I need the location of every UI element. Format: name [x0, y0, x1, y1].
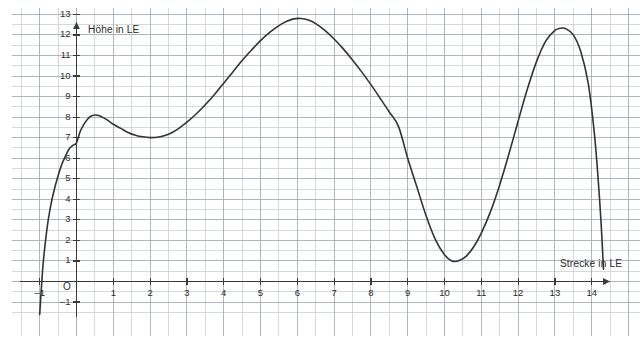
y-axis-label: Höhe in LE: [88, 24, 139, 35]
y-tick-label: –1: [55, 296, 71, 307]
data-curve: [40, 18, 604, 314]
x-tick-label: 8: [362, 287, 380, 298]
x-tick-label: –1: [31, 287, 49, 298]
x-tick-label: 13: [546, 287, 564, 298]
x-tick-label: 6: [288, 287, 306, 298]
x-tick-label: 5: [252, 287, 270, 298]
y-tick-label: 10: [55, 70, 71, 81]
x-tick-label: 3: [178, 287, 196, 298]
y-tick-label: 1: [55, 254, 71, 265]
x-axis-arrow: [603, 278, 610, 285]
y-tick-label: 6: [55, 152, 71, 163]
x-tick-label: 11: [472, 287, 490, 298]
y-axis-arrow: [73, 22, 80, 29]
y-tick-label: 5: [55, 172, 71, 183]
y-tick-label: 12: [55, 28, 71, 39]
x-tick-label: 1: [104, 287, 122, 298]
y-tick-label: 11: [55, 49, 71, 60]
x-tick-label: 7: [325, 287, 343, 298]
y-tick-label: 4: [55, 193, 71, 204]
y-tick-label: 8: [55, 111, 71, 122]
y-tick-label: 3: [55, 213, 71, 224]
x-tick-label: 2: [141, 287, 159, 298]
x-tick-label: 9: [399, 287, 417, 298]
x-tick-label: 14: [583, 287, 601, 298]
x-axis-label: Strecke in LE: [560, 258, 622, 269]
axes: [20, 22, 610, 317]
x-tick-label: 12: [509, 287, 527, 298]
origin-label: O: [63, 281, 71, 292]
x-tick-label: 4: [215, 287, 233, 298]
y-tick-label: 2: [55, 234, 71, 245]
y-tick-label: 7: [55, 131, 71, 142]
y-tick-label: 13: [55, 8, 71, 19]
chart-canvas: Höhe in LE Strecke in LE O –112345678910…: [0, 0, 644, 340]
y-tick-label: 9: [55, 90, 71, 101]
x-tick-label: 10: [436, 287, 454, 298]
